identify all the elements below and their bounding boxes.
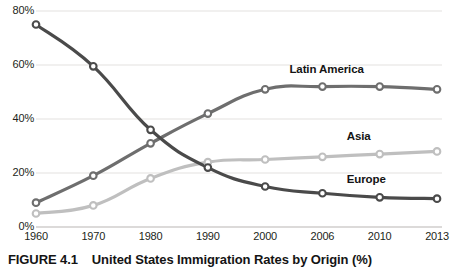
series-label-latin-america: Latin America (289, 63, 363, 75)
x-tick-label-1960: 1960 (14, 230, 58, 242)
y-tick-label-2: 40% (0, 112, 34, 124)
x-tick-label-2006: 2006 (300, 230, 344, 242)
data-point-latin-america-1990 (205, 110, 212, 117)
series-label-europe: Europe (347, 173, 386, 185)
data-point-latin-america-2013 (434, 86, 441, 93)
data-point-latin-america-2000 (262, 86, 269, 93)
chart-plot-area: 0% 20% 40% 60% 80% 1960 1970 1980 1990 2… (0, 0, 444, 244)
data-point-asia-2010 (376, 151, 383, 158)
data-point-europe-2000 (262, 183, 269, 190)
data-point-europe-2010 (376, 194, 383, 201)
figure-caption: FIGURE 4.1United States Immigration Rate… (8, 252, 372, 267)
x-tick-label-1980: 1980 (129, 230, 173, 242)
y-tick-label-4: 80% (0, 4, 34, 16)
immigration-rates-line-chart (0, 0, 444, 244)
data-point-europe-1980 (147, 127, 154, 134)
data-point-asia-2013 (434, 148, 441, 155)
data-point-asia-2006 (319, 154, 326, 161)
figure-caption-title: United States Immigration Rates by Origi… (92, 252, 372, 267)
data-point-europe-2013 (434, 195, 441, 202)
x-tick-label-2000: 2000 (243, 230, 287, 242)
y-tick-label-3: 60% (0, 58, 34, 70)
data-point-latin-america-2006 (319, 83, 326, 90)
x-tick-label-2013: 2013 (415, 230, 454, 242)
data-point-europe-1970 (90, 63, 97, 70)
data-point-europe-2006 (319, 190, 326, 197)
series-label-asia: Asia (347, 130, 371, 142)
data-point-asia-1970 (90, 202, 97, 209)
data-point-europe-1990 (205, 164, 212, 171)
data-point-latin-america-1960 (33, 199, 40, 206)
data-point-latin-america-1970 (90, 172, 97, 179)
x-tick-label-1990: 1990 (186, 230, 230, 242)
y-tick-label-1: 20% (0, 166, 34, 178)
x-tick-label-1970: 1970 (71, 230, 115, 242)
x-tick-label-2010: 2010 (358, 230, 402, 242)
data-point-asia-2000 (262, 156, 269, 163)
data-point-asia-1980 (147, 175, 154, 182)
data-point-asia-1960 (33, 210, 40, 217)
data-point-europe-1960 (33, 21, 40, 28)
figure-caption-id: FIGURE 4.1 (8, 252, 78, 267)
data-point-latin-america-1980 (147, 140, 154, 147)
data-point-latin-america-2010 (376, 83, 383, 90)
